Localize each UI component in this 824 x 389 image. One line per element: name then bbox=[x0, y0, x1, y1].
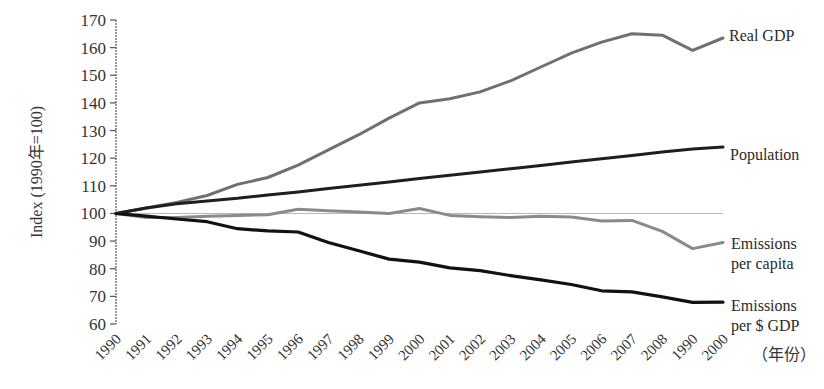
x-tick-label: 1996 bbox=[274, 330, 307, 363]
y-tick-label: 150 bbox=[81, 66, 107, 85]
series-label: Emissions bbox=[731, 297, 797, 314]
y-tick-label: 60 bbox=[89, 315, 106, 334]
x-tick-label: 1991 bbox=[122, 331, 155, 364]
x-tick-label: 2000 bbox=[699, 331, 732, 364]
y-axis-label: Index (1990年=100) bbox=[28, 106, 46, 238]
x-tick-label: 2005 bbox=[547, 331, 580, 364]
x-tick-label: 1992 bbox=[152, 331, 185, 364]
series-line-emissions-per-capita bbox=[116, 209, 723, 249]
y-tick-label: 140 bbox=[81, 94, 107, 113]
x-tick-label: 2002 bbox=[456, 331, 489, 364]
y-tick-label: 100 bbox=[81, 204, 107, 223]
y-tick-label: 130 bbox=[81, 122, 107, 141]
x-tick-label: 2007 bbox=[608, 330, 641, 363]
x-axis: 1990199119921993199419951996199719981999… bbox=[92, 330, 732, 363]
y-axis-title: Index (1990年=100) bbox=[28, 106, 46, 238]
x-tick-label: 1993 bbox=[183, 331, 216, 364]
x-tick-label: 2003 bbox=[486, 331, 519, 364]
series-lines bbox=[116, 34, 723, 303]
y-tick-label: 90 bbox=[89, 232, 106, 251]
y-axis: 60708090100110120130140150160170 bbox=[81, 11, 117, 334]
x-tick-label: 1997 bbox=[304, 330, 337, 363]
series-labels: Real GDPPopulationEmissionsper capitaEmi… bbox=[729, 27, 800, 335]
y-tick-label: 120 bbox=[81, 149, 107, 168]
series-line-real-gdp bbox=[116, 34, 723, 214]
x-tick-label: 1999 bbox=[365, 331, 398, 364]
series-label: per $ GDP bbox=[731, 317, 800, 335]
x-tick-label: 2008 bbox=[638, 331, 671, 364]
y-tick-label: 170 bbox=[81, 11, 107, 30]
series-label: Population bbox=[730, 146, 799, 164]
y-tick-label: 160 bbox=[81, 39, 107, 58]
y-tick-label: 80 bbox=[89, 260, 106, 279]
series-line-emissions-per-gdp bbox=[116, 214, 723, 303]
y-tick-label: 70 bbox=[89, 287, 106, 306]
y-tick-label: 110 bbox=[81, 177, 106, 196]
x-tick-label: 1994 bbox=[213, 330, 246, 363]
x-tick-label: 1998 bbox=[334, 331, 367, 364]
x-tick-label: 2001 bbox=[425, 331, 458, 364]
series-line-population bbox=[116, 147, 723, 213]
series-label: Emissions bbox=[731, 235, 797, 252]
series-label: per capita bbox=[731, 255, 794, 273]
x-tick-label: 2004 bbox=[516, 330, 549, 363]
x-tick-label: 1995 bbox=[243, 331, 276, 364]
x-tick-label: 1990 bbox=[92, 331, 125, 364]
x-axis-unit-label: （年份） bbox=[752, 346, 816, 363]
series-label: Real GDP bbox=[729, 27, 794, 44]
x-tick-label: 2000 bbox=[395, 331, 428, 364]
x-tick-label: 1990 bbox=[668, 331, 701, 364]
x-tick-label: 2006 bbox=[577, 330, 610, 363]
line-chart: Index (1990年=100) 6070809010011012013014… bbox=[0, 0, 824, 389]
